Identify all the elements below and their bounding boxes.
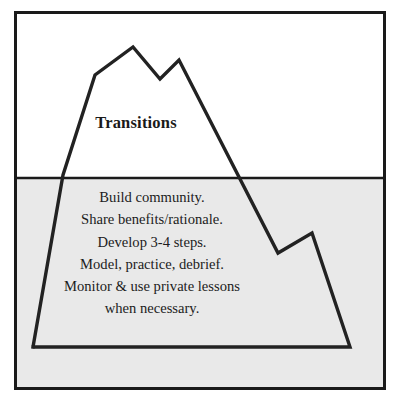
mountain-diagram-svg (0, 0, 398, 405)
figure-page: Transitions Build community. Share benef… (0, 0, 398, 405)
